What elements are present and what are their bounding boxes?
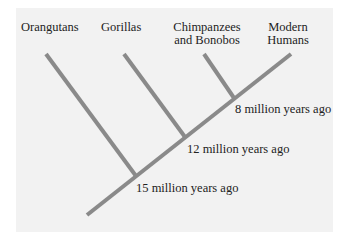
divergence-label-12mya: 12 million years ago	[187, 143, 289, 156]
taxon-label-humans-line2: Humans	[262, 34, 314, 47]
chimpanzee-branch-line	[204, 54, 234, 98]
taxon-label-humans: Modern Humans	[262, 21, 314, 47]
taxon-label-gorillas: Gorillas	[101, 21, 141, 34]
taxon-label-chimpanzees: Chimpanzees and Bonobos	[170, 21, 244, 47]
taxon-label-chimpanzees-line2: and Bonobos	[170, 34, 244, 47]
gorilla-branch-line	[124, 54, 185, 137]
orangutan-branch-line	[46, 54, 136, 176]
divergence-label-8mya: 8 million years ago	[235, 103, 331, 116]
divergence-label-15mya: 15 million years ago	[136, 182, 238, 195]
taxon-label-orangutans: Orangutans	[21, 21, 79, 34]
